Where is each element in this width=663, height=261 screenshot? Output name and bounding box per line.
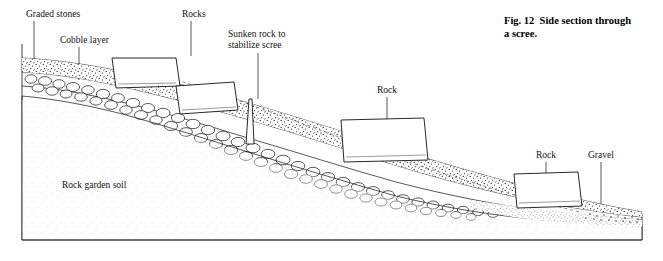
figure-caption-line1: Fig. 12 Side section through — [504, 14, 631, 27]
label-cobble-layer: Cobble layer — [60, 35, 109, 46]
figure-caption-line2: a scree. — [504, 27, 537, 40]
rock-block-2 — [176, 82, 238, 114]
figure-container: Fig. 12 Side section through a scree. Gr… — [0, 0, 663, 261]
label-rock-mid: Rock — [377, 85, 397, 96]
label-graded-stones: Graded stones — [26, 9, 80, 20]
label-gravel: Gravel — [588, 150, 614, 161]
label-sunken-rock-line2: stabilize scree — [228, 40, 282, 51]
label-rock-garden-soil: Rock garden soil — [62, 180, 126, 191]
label-sunken-rock-line1: Sunken rock to — [228, 29, 286, 40]
label-rocks: Rocks — [182, 9, 206, 20]
label-rock-right: Rock — [536, 150, 556, 161]
